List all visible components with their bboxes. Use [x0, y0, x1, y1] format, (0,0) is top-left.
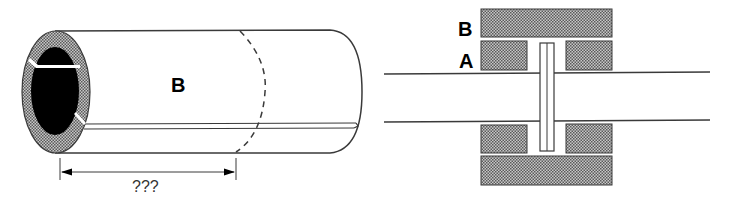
outer-block-bottom — [481, 156, 612, 185]
cross-section-figure: B A — [384, 9, 710, 185]
diagram-canvas: B ??? B A — [0, 0, 732, 200]
inner-block-top-left — [481, 41, 527, 70]
cylinder-figure: B ??? — [22, 30, 362, 195]
cylinder-body — [55, 30, 362, 153]
inner-block-top-right — [566, 41, 612, 70]
dimension-label: ??? — [132, 178, 159, 195]
outer-layer-label: B — [458, 18, 472, 40]
dimension-arrow-left-icon — [61, 169, 72, 176]
dimension-arrow-right-icon — [224, 169, 235, 176]
inner-layer-label: A — [459, 50, 473, 72]
inner-block-bottom-right — [566, 124, 612, 153]
cylinder-label: B — [171, 74, 185, 96]
cylinder-core — [31, 47, 79, 135]
inner-block-bottom-left — [481, 125, 527, 153]
outer-block-top — [481, 9, 612, 37]
